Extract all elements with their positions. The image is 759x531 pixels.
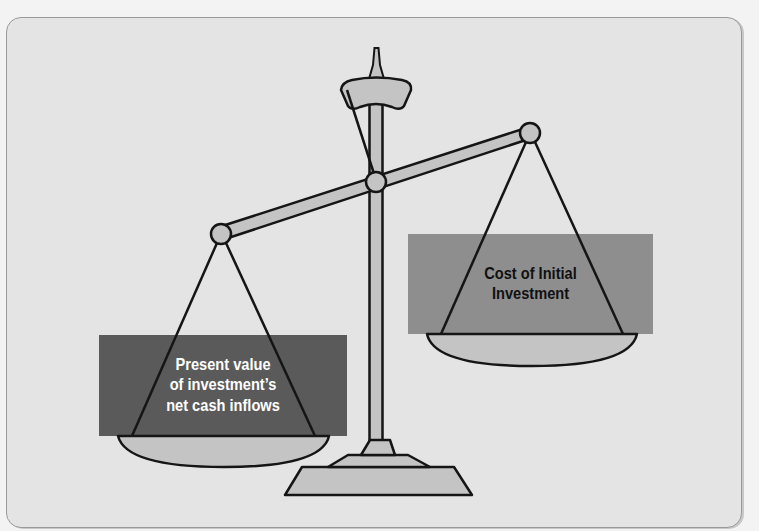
right-pan-label: Cost of Initial Investment [425,234,636,334]
right-label-line-2: Investment [484,284,577,304]
center-pivot [366,172,386,192]
scale-base-middle-tier [328,455,430,467]
scale-pole [370,100,383,442]
right-pan [427,334,637,366]
left-pan-label: Present value of investment’s net cash i… [116,335,329,436]
scale-base-top-tier [361,440,395,455]
left-label-line-1: Present value [166,355,280,375]
left-label-line-3: net cash inflows [166,396,280,416]
left-pan [118,436,329,467]
scale-base-bottom-tier [285,467,472,495]
right-label-line-1: Cost of Initial [484,264,577,284]
scale-top-spike [369,48,384,79]
left-pivot [211,224,231,244]
left-label-line-2: of investment’s [166,375,280,395]
right-pivot [520,123,540,143]
balance-scale-diagram [0,0,759,531]
